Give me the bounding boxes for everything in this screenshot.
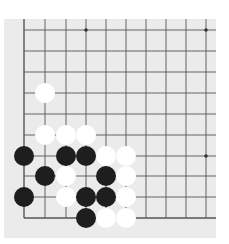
white-stone [116,166,136,186]
black-stone [96,187,116,207]
white-stone [116,146,136,166]
white-stone [96,208,116,228]
white-stone [56,125,76,145]
black-stone [76,146,96,166]
white-stone [35,125,55,145]
go-board[interactable] [0,0,229,244]
white-stone [96,146,116,166]
white-stone [35,83,55,103]
white-stone [76,125,96,145]
white-stone [116,187,136,207]
black-stone [76,208,96,228]
black-stone [14,187,34,207]
star-point [204,154,208,158]
white-stone [56,166,76,186]
star-point [204,28,208,32]
board-grid [24,19,216,218]
star-point [84,28,88,32]
white-stone [56,187,76,207]
black-stone [35,166,55,186]
black-stone [96,166,116,186]
stones-layer [14,83,136,228]
black-stone [56,146,76,166]
white-stone [116,208,136,228]
black-stone [14,146,34,166]
black-stone [76,187,96,207]
